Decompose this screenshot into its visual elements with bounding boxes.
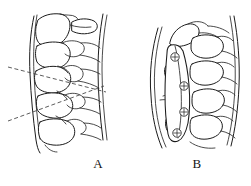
screw-4 (173, 129, 181, 137)
panel-a-vertebra-5 (38, 119, 101, 145)
screw-1 (171, 53, 179, 61)
panel-a-vertebra-4 (36, 93, 101, 118)
screw-3 (180, 108, 188, 116)
panel-b-vertebra-3 (192, 89, 237, 113)
panel-b-vertebra-4 (190, 115, 235, 139)
screw-2 (180, 82, 188, 90)
panel-a-illustration (8, 14, 107, 153)
panel-a-posterior-column (98, 14, 107, 140)
panel-a-vertebra-3 (35, 65, 101, 93)
panel-a-caption: A (93, 157, 103, 170)
panel-b-vertebra-1 (191, 35, 237, 58)
panel-a-vertebra-2 (36, 41, 101, 69)
panel-b-illustration (150, 16, 239, 148)
panel-b-anterior-column (150, 27, 166, 148)
panel-b-caption: B (193, 157, 202, 170)
figure-illustration (0, 0, 251, 186)
figure-root: A B (0, 0, 251, 186)
panel-a-posterior-element-1 (70, 19, 97, 34)
panel-b-vertebra-2 (190, 61, 237, 85)
